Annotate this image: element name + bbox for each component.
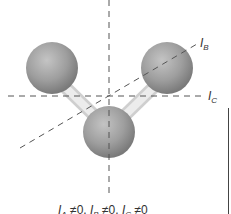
axis-b-label: IB bbox=[200, 37, 209, 52]
caption-sub-c: C bbox=[125, 210, 131, 214]
axis-c-label: IC bbox=[208, 90, 217, 105]
caption-val-c: 0 bbox=[141, 203, 148, 214]
axis-b-subscript: B bbox=[203, 43, 208, 52]
caption-sub-b: B bbox=[93, 210, 98, 214]
caption-rel-a: ≠ bbox=[70, 203, 77, 214]
atom-left bbox=[26, 42, 78, 94]
caption: IA ≠0, IB ≠0, IC ≠0 bbox=[58, 203, 148, 214]
atom-right bbox=[141, 42, 193, 94]
frame-edge-line bbox=[228, 108, 229, 214]
caption-rel-b: ≠ bbox=[102, 203, 109, 214]
caption-val-b: 0, bbox=[109, 203, 119, 214]
axis-c-subscript: C bbox=[211, 96, 217, 105]
molecule-diagram bbox=[0, 0, 231, 214]
caption-val-a: 0, bbox=[77, 203, 87, 214]
caption-sub-a: A bbox=[61, 210, 66, 214]
